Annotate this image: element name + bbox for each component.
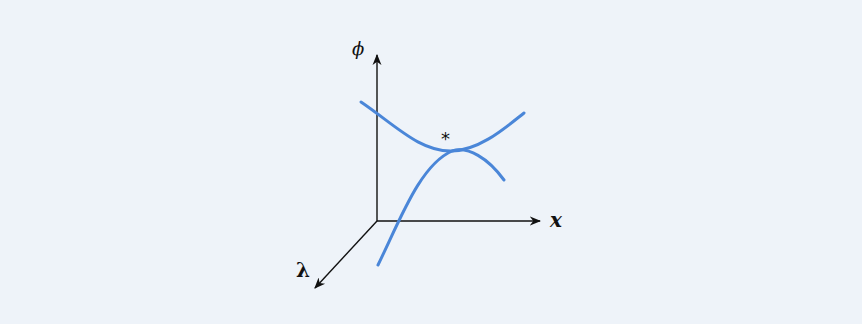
x-label: x xyxy=(549,208,563,232)
critical-point-marker: * xyxy=(441,128,450,149)
lambda-label: λ xyxy=(296,258,310,282)
bifurcation-diagram: ϕ x λ * xyxy=(0,0,862,324)
lambda-axis xyxy=(315,221,377,288)
phi-label: ϕ xyxy=(352,38,364,59)
crossing-curve xyxy=(378,150,504,265)
